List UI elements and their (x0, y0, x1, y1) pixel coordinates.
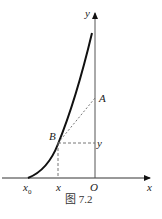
figure: y A B y x0 x O x 图 7.2 (0, 0, 162, 219)
curve (28, 33, 92, 178)
y-axis-label: y (84, 7, 90, 19)
x0-label: x0 (22, 181, 32, 196)
figure-caption: 图 7.2 (65, 193, 93, 205)
point-b-label: B (49, 130, 56, 142)
origin-label: O (90, 181, 98, 193)
tangent-line (58, 98, 95, 143)
y-coord-label: y (96, 137, 102, 149)
point-a-label: A (98, 92, 106, 104)
x-axis-label: x (146, 181, 152, 193)
x-coord-label: x (55, 181, 61, 193)
